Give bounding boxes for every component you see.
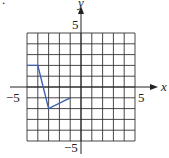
x-axis-label: x	[160, 79, 167, 94]
x-tick-neg5: −5	[6, 90, 20, 105]
y-tick-neg5: −5	[64, 140, 78, 155]
y-tick-5: 5	[72, 17, 79, 32]
x-tick-5: 5	[138, 90, 145, 105]
marker-dot: .	[2, 0, 5, 7]
x-axis-arrow-icon	[150, 84, 158, 90]
x-axis	[10, 84, 158, 90]
coordinate-plane: . x y 5 −5 5 −5	[0, 0, 169, 158]
y-axis	[78, 6, 84, 154]
y-axis-label: y	[76, 0, 84, 10]
